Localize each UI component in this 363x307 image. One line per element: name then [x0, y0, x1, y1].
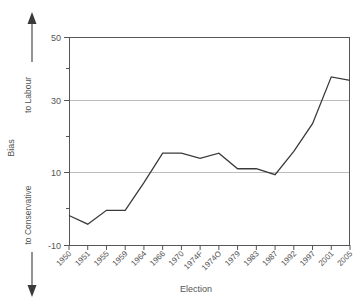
- ytick-label-30: 30: [51, 96, 61, 106]
- y-axis-ticks: [64, 38, 69, 246]
- xtick-label-1992: 1992: [279, 249, 298, 268]
- ytick-label-50: 50: [51, 33, 61, 43]
- x-axis-title: Election: [180, 284, 212, 294]
- y-axis-title: Bias: [6, 139, 16, 157]
- xtick-label-1964: 1964: [129, 249, 148, 268]
- xtick-label-1959: 1959: [111, 249, 130, 268]
- xtick-label-1987: 1987: [261, 249, 280, 268]
- arrow-up-icon: [28, 12, 37, 62]
- xtick-label-1983: 1983: [242, 249, 261, 268]
- arrow-down-icon: [28, 252, 37, 297]
- bias-line-chart: to Labour to Conservative Bias 50 30 10 …: [0, 0, 363, 307]
- plot-gridlines: [69, 101, 350, 173]
- ytick-label-10: 10: [51, 168, 61, 178]
- xtick-label-2005: 2005: [335, 249, 354, 268]
- xtick-label-2001: 2001: [317, 249, 336, 268]
- xtick-label-1979: 1979: [223, 249, 242, 268]
- x-axis-labels: 19501951195519591964196619701974F1974O19…: [54, 249, 354, 273]
- chart-canvas: to Labour to Conservative Bias 50 30 10 …: [0, 0, 363, 307]
- direction-label-labour: to Labour: [23, 77, 33, 113]
- direction-label-conservative: to Conservative: [23, 185, 33, 244]
- xtick-label-1974O: 1974O: [200, 249, 223, 272]
- ytick-label-minus10: -10: [48, 241, 61, 251]
- plot-axes: [69, 37, 350, 246]
- xtick-label-1997: 1997: [298, 249, 317, 268]
- xtick-label-1951: 1951: [73, 249, 92, 268]
- xtick-label-1950: 1950: [54, 249, 73, 268]
- xtick-label-1966: 1966: [148, 249, 167, 268]
- series-line-bias: [69, 77, 350, 224]
- xtick-label-1955: 1955: [92, 249, 111, 268]
